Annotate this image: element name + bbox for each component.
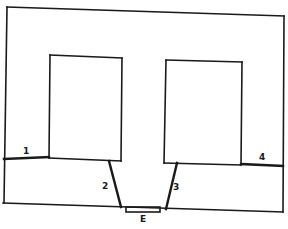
- floor-plan-diagram: 1 2 3 4 E: [0, 0, 288, 229]
- left-block-bottom: [49, 158, 121, 161]
- wall-4: [241, 164, 283, 166]
- outer-right-wall: [283, 16, 284, 212]
- right-block: [164, 60, 242, 165]
- outer-top-wall: [7, 7, 284, 16]
- left-block-top: [50, 55, 122, 58]
- entrance-label: E: [140, 214, 146, 224]
- wall-2-label: 2: [102, 181, 108, 191]
- left-block-right: [121, 58, 122, 161]
- wall-4-label: 4: [259, 152, 265, 162]
- wall-1: [4, 157, 49, 159]
- entrance-door: [126, 207, 160, 212]
- left-block-left: [49, 55, 50, 158]
- right-block-right: [241, 62, 242, 165]
- right-block-top: [166, 60, 242, 62]
- wall-2: [109, 161, 121, 207]
- right-block-left: [164, 60, 166, 163]
- left-block: [49, 55, 122, 161]
- wall-1-label: 1: [23, 146, 29, 156]
- wall-3-label: 3: [173, 182, 179, 192]
- outer-left-wall: [4, 7, 7, 203]
